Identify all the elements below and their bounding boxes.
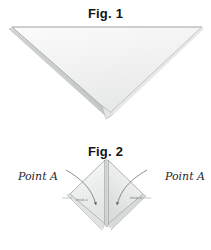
point-a-label-left: Point A	[18, 170, 58, 183]
diamond-center-fold	[105, 160, 108, 227]
figure-2: Fig. 2	[0, 128, 211, 250]
point-a-label-right: Point A	[165, 170, 205, 183]
point-a-inner-label-left: Point A	[76, 198, 88, 202]
point-a-inner-label-right: Point A	[130, 196, 142, 200]
folded-triangle-illustration	[0, 0, 211, 128]
diagram-page: Fig. 1	[0, 0, 211, 250]
figure-1: Fig. 1	[0, 0, 211, 128]
folded-diamond-illustration	[0, 128, 211, 250]
triangle-body	[12, 27, 202, 113]
diamond-right-panel	[108, 160, 146, 230]
diamond-left-panel	[67, 160, 105, 230]
